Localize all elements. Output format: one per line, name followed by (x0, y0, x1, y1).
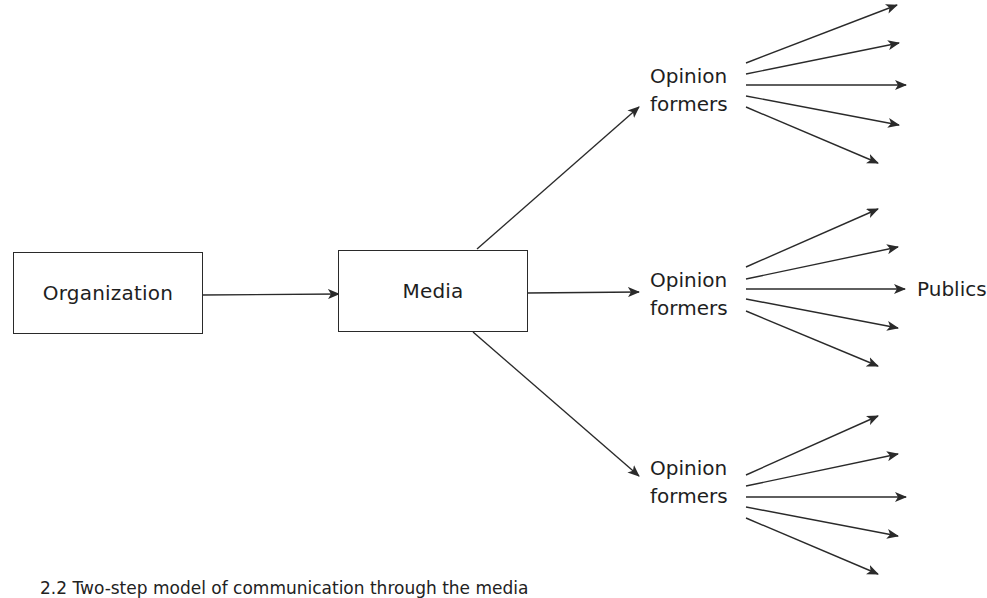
opinion-formers-bottom: Opinion formers (650, 454, 728, 510)
publics-label: Publics (917, 275, 987, 303)
organization-box: Organization (13, 252, 203, 334)
opinion-formers-bottom-line2: formers (650, 482, 728, 510)
arrow-media-to-opinion-bottom (473, 332, 639, 476)
arrow-media-to-opinion-top (477, 107, 639, 249)
opinion-formers-bottom-line1: Opinion (650, 454, 728, 482)
fan-middle (746, 209, 905, 366)
arrow-media-to-opinion-middle (527, 292, 639, 293)
opinion-formers-middle-line2: formers (650, 294, 728, 322)
opinion-formers-middle-line1: Opinion (650, 266, 728, 294)
opinion-formers-top-line2: formers (650, 90, 728, 118)
publics-text: Publics (917, 275, 987, 303)
opinion-formers-top-line1: Opinion (650, 62, 728, 90)
arrow-organization-to-media (202, 294, 339, 295)
media-box: Media (338, 250, 528, 332)
figure-caption: 2.2 Two-step model of communication thro… (40, 578, 528, 598)
opinion-formers-top: Opinion formers (650, 62, 728, 118)
opinion-formers-middle: Opinion formers (650, 266, 728, 322)
fan-bottom (746, 416, 906, 574)
organization-label: Organization (43, 281, 173, 305)
fan-top (746, 5, 906, 163)
media-label: Media (402, 279, 463, 303)
